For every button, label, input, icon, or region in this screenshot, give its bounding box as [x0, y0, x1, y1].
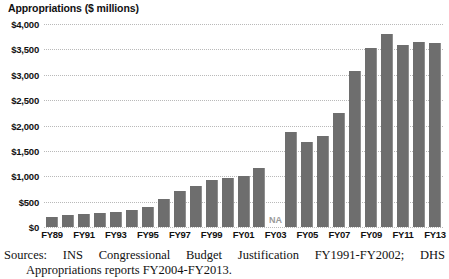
- y-axis-tick-label: $1,500: [11, 145, 39, 156]
- bar: [174, 191, 186, 227]
- y-axis-tick-label: $3,000: [11, 69, 39, 80]
- x-axis-tick-label: FY09: [360, 229, 382, 240]
- bar: [253, 168, 265, 227]
- x-axis-tick-label: FY95: [137, 229, 159, 240]
- x-axis-tick-labels: FY89FY91FY93FY95FY97FY99FY01FY03FY05FY07…: [44, 229, 449, 245]
- bar: [222, 178, 234, 227]
- bar: [365, 48, 377, 227]
- x-axis-tick-label: FY91: [73, 229, 95, 240]
- bar: [397, 45, 409, 227]
- bar: [190, 186, 202, 227]
- bar: [349, 71, 361, 227]
- x-axis-tick-label: FY11: [393, 229, 414, 240]
- bar: [413, 42, 425, 227]
- bar: [62, 215, 74, 227]
- source-note-line-2: Appropriations reports FY2004-FY2013.: [26, 263, 445, 278]
- y-axis-tick-label: $2,500: [11, 95, 39, 106]
- bar: [429, 43, 441, 227]
- bars-layer: NA: [44, 24, 443, 227]
- appropriations-bar-chart: Appropriations ($ millions) $4,000$3,500…: [0, 0, 449, 279]
- source-note: Sources: INS Congressional Budget Justif…: [4, 248, 445, 277]
- y-axis-tick-labels: $4,000$3,500$3,000$2,500$2,000$1,500$1,0…: [0, 0, 42, 240]
- plot-area: NA: [44, 24, 443, 227]
- bar: [285, 132, 297, 227]
- bar: [110, 212, 122, 227]
- x-axis-tick-label: FY99: [201, 229, 223, 240]
- bar: [333, 113, 345, 227]
- bar: [206, 180, 218, 227]
- bar: [142, 207, 154, 227]
- y-axis-tick-label: $3,500: [11, 44, 39, 55]
- x-axis-tick-label: FY05: [297, 229, 319, 240]
- x-axis-tick-label: FY89: [41, 229, 63, 240]
- bar: [381, 34, 393, 227]
- bar: [301, 142, 313, 227]
- x-axis-tick-label: FY07: [328, 229, 350, 240]
- bar: [238, 176, 250, 227]
- x-axis-tick-label: FY97: [169, 229, 191, 240]
- x-axis-tick-label: FY13: [424, 229, 446, 240]
- bar: [94, 213, 106, 227]
- y-axis-tick-label: $500: [19, 196, 39, 207]
- bar-missing-na-label: NA: [268, 215, 282, 225]
- x-axis-tick-label: FY03: [265, 229, 287, 240]
- x-axis-tick-label: FY93: [105, 229, 127, 240]
- x-axis-tick-label: FY01: [233, 229, 255, 240]
- y-axis-tick-label: $0: [29, 222, 39, 233]
- bar: [126, 210, 138, 227]
- bar: [317, 136, 329, 227]
- gridline: [44, 227, 443, 228]
- source-note-line-1: Sources: INS Congressional Budget Justif…: [4, 248, 445, 263]
- y-axis-tick-label: $2,000: [11, 120, 39, 131]
- y-axis-tick-label: $4,000: [11, 19, 39, 30]
- y-axis-tick-label: $1,000: [11, 171, 39, 182]
- bar: [158, 199, 170, 227]
- bar: [46, 217, 58, 227]
- bar: [78, 214, 90, 227]
